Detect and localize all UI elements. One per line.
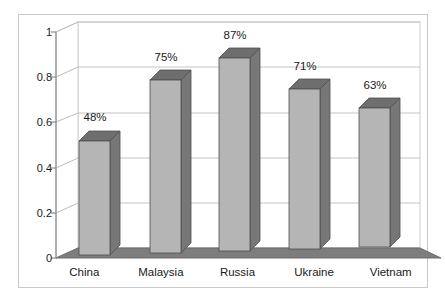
- x-label-china: China: [46, 265, 123, 285]
- y-tick-label-0.6: 0.6: [16, 117, 52, 128]
- chart-plot-frame: [18, 14, 428, 288]
- y-tick-label-1: 1: [16, 27, 52, 38]
- y-tick-label-0: 0: [16, 253, 52, 264]
- y-tick-label-0.4: 0.4: [16, 163, 52, 174]
- x-label-ukraine: Ukraine: [276, 265, 353, 285]
- x-label-malaysia: Malaysia: [123, 265, 200, 285]
- chart-container: 1 0.8 0.6 0.4 0.2 0 48% 75% 87% 71% 63% …: [0, 0, 445, 307]
- x-axis-labels: China Malaysia Russia Ukraine Vietnam: [0, 265, 445, 285]
- y-tick-label-0.2: 0.2: [16, 208, 52, 219]
- data-label-china: 48%: [73, 111, 117, 123]
- data-label-malaysia: 75%: [144, 51, 188, 63]
- data-label-vietnam: 63%: [353, 79, 397, 91]
- y-tick-label-0.8: 0.8: [16, 72, 52, 83]
- y-axis-labels: 1 0.8 0.6 0.4 0.2 0: [14, 0, 52, 307]
- x-label-russia: Russia: [199, 265, 276, 285]
- data-label-ukraine: 71%: [283, 60, 327, 72]
- data-label-russia: 87%: [213, 29, 257, 41]
- x-label-vietnam: Vietnam: [352, 265, 429, 285]
